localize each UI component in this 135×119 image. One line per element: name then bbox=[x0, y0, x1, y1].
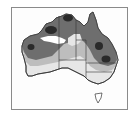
australia-map bbox=[0, 0, 135, 119]
zone-highest-se-qld bbox=[102, 56, 111, 63]
zone-highest-topend bbox=[63, 15, 73, 22]
zone-highest-kimberley bbox=[45, 26, 57, 34]
tasmania bbox=[95, 93, 102, 103]
zone-highest-pilbara bbox=[28, 44, 35, 50]
zone-highest-central-qld bbox=[95, 42, 103, 50]
